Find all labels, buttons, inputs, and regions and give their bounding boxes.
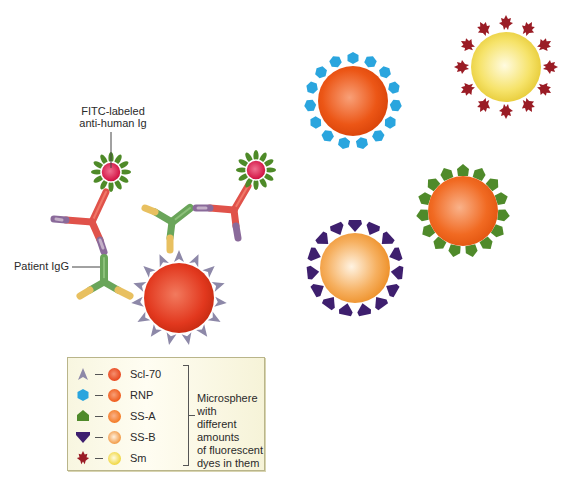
triangle-spike-icon	[76, 367, 90, 381]
microsphere-rnp	[304, 52, 403, 150]
fitc-label: FITC-labeled anti-human Ig	[78, 105, 148, 129]
legend-label: RNP	[130, 389, 153, 401]
legend-label: SS-A	[130, 410, 156, 422]
diamond-gem-icon	[76, 430, 90, 444]
legend-description-line: Microsphere with	[197, 392, 264, 418]
legend-dash	[95, 458, 103, 459]
fitc-label-line1: FITC-labeled	[78, 105, 148, 117]
maple-leaf-icon	[76, 451, 90, 465]
legend-item-scl70: Scl-70	[68, 364, 161, 384]
bead-icon	[108, 389, 121, 402]
legend: Scl-70 RNP SS-A SS-B Sm Microsphere	[67, 357, 265, 471]
patient-igg-label: Patient IgG	[14, 260, 69, 272]
legend-item-rnp: RNP	[68, 385, 153, 405]
legend-item-ssa: SS-A	[68, 406, 156, 426]
legend-description-line: different amounts	[197, 418, 264, 444]
legend-dash	[95, 374, 103, 375]
fitc-conjugate-2	[236, 150, 276, 190]
legend-label: Scl-70	[130, 368, 161, 380]
legend-item-sm: Sm	[68, 448, 147, 468]
legend-dash	[95, 437, 103, 438]
legend-item-ssb: SS-B	[68, 427, 156, 447]
bead-icon	[108, 431, 121, 444]
legend-description-line: of fluorescent	[197, 444, 264, 457]
legend-description-line: dyes in them	[197, 457, 264, 470]
microsphere-scl70	[131, 250, 228, 346]
fitc-label-line2: anti-human Ig	[78, 117, 148, 129]
legend-dash	[95, 395, 103, 396]
legend-label: Sm	[130, 452, 147, 464]
patient-igg-left	[80, 258, 130, 296]
legend-description: Microsphere with different amounts of fl…	[197, 392, 264, 470]
legend-label: SS-B	[130, 431, 156, 443]
legend-dash	[95, 416, 103, 417]
legend-bracket-tick	[189, 415, 195, 416]
microsphere-ssb	[307, 220, 404, 316]
microsphere-sm	[454, 15, 558, 119]
bead-icon	[108, 410, 121, 423]
anti-human-ig-left	[54, 192, 106, 252]
anti-human-ig-right	[196, 186, 248, 238]
bead-icon	[108, 368, 121, 381]
pentagon-icon	[76, 409, 90, 423]
microsphere-ssa	[416, 164, 511, 258]
hexagon-icon	[76, 388, 90, 402]
bead-icon	[108, 452, 121, 465]
patient-igg-right	[145, 208, 190, 250]
